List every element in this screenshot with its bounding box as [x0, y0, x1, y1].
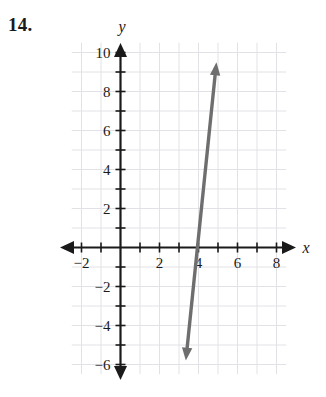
line-upper-arrowhead	[210, 62, 220, 75]
y-axis-down-arrowhead	[114, 366, 127, 380]
x-axis-left-arrowhead	[60, 241, 74, 254]
y-axis-up-arrowhead	[114, 43, 127, 57]
x-axis-tick-label: 8	[273, 255, 281, 271]
x-axis-tick-label: 6	[234, 255, 242, 271]
line-shaft	[187, 72, 216, 351]
coordinate-graph: −22468108642−2−4−6 xy	[0, 0, 326, 397]
axis-name-labels: xy	[116, 18, 309, 256]
y-axis-tick-label: −2	[95, 279, 111, 295]
y-axis-tick-label: 10	[96, 45, 111, 61]
line-lower-arrowhead	[182, 347, 192, 360]
worksheet-page: 14. −22468108642−2−4−6 xy	[0, 0, 326, 397]
y-axis-tick-label: −4	[95, 318, 111, 334]
y-axis-tick-label: 4	[103, 162, 111, 178]
x-axis-right-arrowhead	[282, 241, 296, 254]
x-axis-name-label: x	[301, 239, 309, 256]
y-axis-tick-label: 6	[103, 123, 111, 139]
y-axis-tick-label: 8	[103, 84, 111, 100]
graph-svg: −22468108642−2−4−6 xy	[0, 0, 326, 397]
y-axis-name-label: y	[116, 18, 126, 36]
plotted-line	[182, 62, 220, 360]
y-axis-tick-label: −6	[95, 357, 111, 373]
x-axis-tick-label: 2	[156, 255, 164, 271]
y-axis-tick-label: 2	[103, 201, 111, 217]
x-axis-tick-label: −2	[74, 255, 90, 271]
